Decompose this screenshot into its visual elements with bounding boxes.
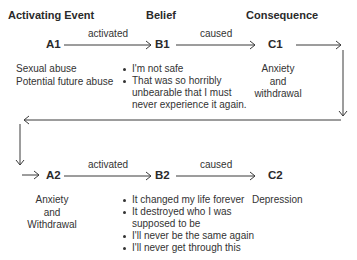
a1-item: Sexual abuse xyxy=(16,63,113,76)
b1-belief-list: I'm not safe That was so horriblyunbeara… xyxy=(122,63,247,111)
b2-bullet: I'll never be the same again xyxy=(122,230,254,242)
b1-bullet: I'm not safe xyxy=(122,63,247,75)
label-activated-1: activated xyxy=(88,28,128,39)
node-c1: C1 xyxy=(268,38,283,50)
label-caused-1: caused xyxy=(200,28,232,39)
b2-belief-list: It changed my life forever It destroyed … xyxy=(122,194,254,254)
a1-item: Potential future abuse xyxy=(16,76,113,89)
node-c2: C2 xyxy=(268,169,283,181)
a1-description: Sexual abuse Potential future abuse xyxy=(16,63,113,88)
c1-description: Anxiety and withdrawal xyxy=(252,63,304,101)
node-a2: A2 xyxy=(46,169,61,181)
header-belief: Belief xyxy=(146,9,176,21)
c2-description: Depression xyxy=(252,194,303,207)
b2-bullet: I'll never get through this xyxy=(122,242,254,254)
label-caused-2: caused xyxy=(200,159,232,170)
label-activated-2: activated xyxy=(88,159,128,170)
b2-bullet: It changed my life forever xyxy=(122,194,254,206)
a2-description: Anxiety and Withdrawal xyxy=(26,194,78,232)
node-a1: A1 xyxy=(46,38,61,50)
node-b2: B2 xyxy=(155,169,170,181)
b2-bullet: It destroyed who I wassupposed to be xyxy=(122,206,254,230)
node-b1: B1 xyxy=(155,38,170,50)
b1-bullet: That was so horriblyunbearable that I mu… xyxy=(122,75,247,111)
header-activating-event: Activating Event xyxy=(8,9,94,21)
header-consequence: Consequence xyxy=(246,9,318,21)
